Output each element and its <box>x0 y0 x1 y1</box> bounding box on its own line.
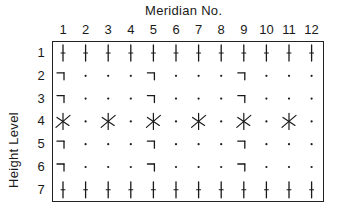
tick-icon <box>84 182 88 198</box>
dot-icon <box>265 98 267 100</box>
dot-icon <box>107 143 109 145</box>
dot-icon <box>175 143 177 145</box>
tick-icon <box>310 45 314 61</box>
angle-icon <box>238 141 245 148</box>
dot-icon <box>107 98 109 100</box>
tick-icon <box>287 182 291 198</box>
dot-icon <box>288 166 290 168</box>
tick-icon <box>61 182 65 198</box>
angle-icon <box>147 73 154 80</box>
dot-icon <box>175 75 177 77</box>
dot-icon <box>288 143 290 145</box>
star-icon <box>56 113 70 129</box>
star-icon <box>282 113 296 129</box>
tick-icon <box>197 45 201 61</box>
angle-icon <box>147 141 154 148</box>
dot-icon <box>130 166 132 168</box>
dot-icon <box>220 166 222 168</box>
dot-icon <box>85 120 87 122</box>
dot-icon <box>130 75 132 77</box>
dot-icon <box>107 75 109 77</box>
dot-icon <box>130 98 132 100</box>
dot-icon <box>265 75 267 77</box>
tick-icon <box>264 45 268 61</box>
dot-icon <box>220 120 222 122</box>
dot-icon <box>175 120 177 122</box>
dot-icon <box>220 98 222 100</box>
star-icon <box>237 113 251 129</box>
tick-icon <box>264 182 268 198</box>
dot-icon <box>265 120 267 122</box>
tick-icon <box>129 182 133 198</box>
dot-icon <box>311 98 313 100</box>
angle-icon <box>238 96 245 103</box>
dot-icon <box>198 75 200 77</box>
tick-icon <box>174 182 178 198</box>
dot-icon <box>198 98 200 100</box>
tick-icon <box>129 45 133 61</box>
dot-icon <box>85 75 87 77</box>
dot-icon <box>311 166 313 168</box>
tick-icon <box>310 182 314 198</box>
tick-icon <box>242 182 246 198</box>
tick-icon <box>84 45 88 61</box>
dot-icon <box>175 166 177 168</box>
angle-icon <box>238 73 245 80</box>
angle-icon <box>57 141 64 148</box>
tick-icon <box>61 45 65 61</box>
dot-icon <box>265 143 267 145</box>
tick-icon <box>197 182 201 198</box>
tick-icon <box>151 45 155 61</box>
dot-icon <box>85 166 87 168</box>
dot-icon <box>311 75 313 77</box>
tick-icon <box>151 182 155 198</box>
dot-icon <box>85 143 87 145</box>
angle-icon <box>57 73 64 80</box>
angle-icon <box>147 96 154 103</box>
dot-icon <box>220 143 222 145</box>
dot-icon <box>85 98 87 100</box>
angle-icon <box>57 96 64 103</box>
dot-icon <box>220 75 222 77</box>
dot-icon <box>288 75 290 77</box>
dot-icon <box>311 120 313 122</box>
angle-icon <box>238 164 245 171</box>
star-icon <box>192 113 206 129</box>
dot-icon <box>198 166 200 168</box>
symbol-grid <box>0 0 344 218</box>
dot-icon <box>311 143 313 145</box>
dot-icon <box>175 98 177 100</box>
angle-icon <box>147 164 154 171</box>
tick-icon <box>106 182 110 198</box>
star-icon <box>146 113 160 129</box>
angle-icon <box>57 164 64 171</box>
star-icon <box>101 113 115 129</box>
dot-icon <box>130 143 132 145</box>
dot-icon <box>107 166 109 168</box>
tick-icon <box>219 45 223 61</box>
tick-icon <box>106 45 110 61</box>
dot-icon <box>265 166 267 168</box>
tick-icon <box>219 182 223 198</box>
dot-icon <box>198 143 200 145</box>
tick-icon <box>174 45 178 61</box>
tick-icon <box>242 45 246 61</box>
dot-icon <box>130 120 132 122</box>
dot-icon <box>288 98 290 100</box>
tick-icon <box>287 45 291 61</box>
